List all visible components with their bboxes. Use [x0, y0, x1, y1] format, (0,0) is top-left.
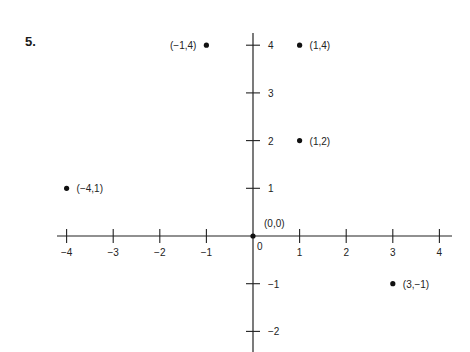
point-label: (−4,1): [77, 183, 103, 194]
data-point: [390, 281, 395, 286]
origin-label: 0: [257, 241, 263, 252]
x-tick-label: −4: [61, 247, 73, 258]
data-point: [297, 138, 302, 143]
y-tick-label: −1: [268, 279, 280, 290]
axis-ticks: −4−3−2−112344321−1−20: [61, 40, 443, 337]
x-tick-label: 1: [297, 247, 303, 258]
x-tick-label: 2: [343, 247, 349, 258]
x-tick-label: −3: [107, 247, 119, 258]
point-label: (−1,4): [170, 40, 196, 51]
point-label: (1,2): [310, 136, 331, 147]
x-tick-label: −1: [201, 247, 213, 258]
point-label: (0,0): [264, 218, 285, 229]
data-point: [64, 186, 69, 191]
y-tick-label: 1: [268, 183, 274, 194]
point-label: (3,−1): [403, 279, 429, 290]
data-point: [297, 43, 302, 48]
coordinate-plane: −4−3−2−112344321−1−20 (−1,4)(1,4)(1,2)(−…: [0, 0, 470, 352]
x-tick-label: 4: [437, 247, 443, 258]
y-tick-label: −2: [268, 326, 280, 337]
y-tick-label: 4: [268, 40, 274, 51]
x-tick-label: 3: [390, 247, 396, 258]
x-tick-label: −2: [154, 247, 166, 258]
data-point: [204, 43, 209, 48]
data-point: [250, 233, 255, 238]
point-label: (1,4): [310, 40, 331, 51]
y-tick-label: 3: [268, 88, 274, 99]
y-tick-label: 2: [268, 136, 274, 147]
